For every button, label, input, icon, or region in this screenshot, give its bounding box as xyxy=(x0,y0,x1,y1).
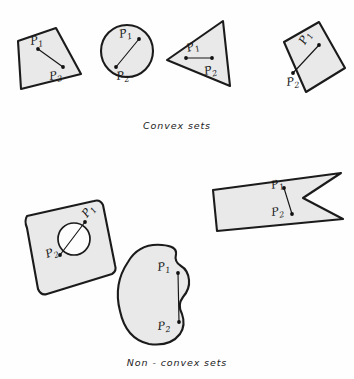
kidney-point-p1 xyxy=(176,271,180,275)
slab-hole xyxy=(58,223,90,255)
triangle-point-p2 xyxy=(210,56,214,60)
shape-notched-rectangle: P1 P2 xyxy=(213,173,343,231)
parallelogram-point-p1 xyxy=(317,43,321,47)
slab-point-p1 xyxy=(83,220,87,224)
triangle-outline xyxy=(167,21,230,86)
circle-point-p1 xyxy=(137,37,141,41)
convex-sets-group: P1 P2 P1 P2 P1 P2 xyxy=(18,21,345,131)
shape-parallelogram: P1 P2 xyxy=(284,22,345,92)
kidney-point-p2 xyxy=(177,320,181,324)
triangle-point-p1 xyxy=(184,56,188,60)
caption-convex-sets: Convex sets xyxy=(143,120,211,131)
shape-triangle: P1 P2 xyxy=(167,21,230,86)
convex-nonconvex-diagram: P1 P2 P1 P2 P1 P2 xyxy=(0,0,354,379)
figure-root: P1 P2 P1 P2 P1 P2 xyxy=(0,0,354,379)
notched-rectangle-point-p2 xyxy=(290,212,294,216)
notched-rectangle-outline xyxy=(213,173,343,231)
parallelogram-label-p2: P2 xyxy=(285,74,300,91)
shape-kidney: P1 P2 xyxy=(118,245,189,345)
shape-circle: P1 P2 xyxy=(101,25,153,85)
circle-point-p2 xyxy=(114,65,118,69)
shape-quadrilateral: P1 P2 xyxy=(18,28,81,89)
caption-nonconvex-sets: Non - convex sets xyxy=(127,357,227,368)
quadrilateral-point-p2 xyxy=(61,65,65,69)
shape-slab-with-hole: P1 P2 xyxy=(26,201,116,295)
nonconvex-sets-group: P1 P2 P1 P2 P1 P2 Non - convex xyxy=(26,173,344,368)
